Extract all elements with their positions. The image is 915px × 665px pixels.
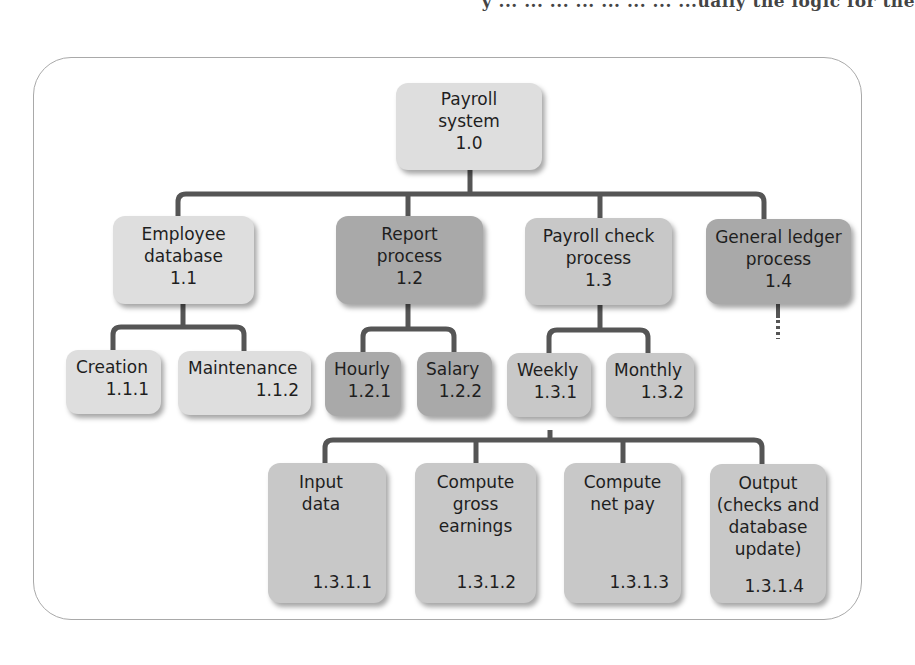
node-number: 1.4	[706, 270, 851, 292]
node-label: Maintenance	[178, 357, 311, 379]
node-hourly: Hourly 1.2.1	[325, 352, 401, 416]
node-number: 1.0	[396, 132, 542, 154]
node-label: Output (checks and database update)	[710, 464, 826, 560]
node-label: Report process	[336, 223, 483, 267]
node-label: Payroll system	[396, 88, 542, 132]
node-creation: Creation 1.1.1	[66, 350, 161, 414]
node-label: Compute net pay	[564, 463, 681, 515]
node-label: Weekly	[507, 359, 591, 381]
node-maintenance: Maintenance 1.1.2	[178, 351, 311, 415]
node-employee-database: Employee database 1.1	[113, 216, 254, 304]
node-number: 1.3.1.3	[610, 571, 669, 593]
node-compute-gross-earnings: Compute gross earnings 1.3.1.2	[415, 463, 536, 603]
node-report-process: Report process 1.2	[336, 216, 483, 304]
node-label: Hourly	[325, 358, 401, 380]
node-number: 1.1.2	[178, 379, 311, 401]
node-number: 1.1	[113, 267, 254, 289]
node-compute-net-pay: Compute net pay 1.3.1.3	[564, 463, 681, 603]
node-label: Salary	[417, 358, 492, 380]
node-monthly: Monthly 1.3.2	[606, 353, 694, 417]
node-label: Compute gross earnings	[415, 463, 536, 537]
node-number: 1.2	[336, 267, 483, 289]
node-payroll-system: Payroll system 1.0	[396, 83, 542, 170]
node-number: 1.2.1	[325, 380, 401, 402]
node-number: 1.2.2	[417, 380, 492, 402]
node-number: 1.3.1.4	[745, 575, 804, 597]
node-label: Employee database	[113, 223, 254, 267]
node-label: General ledger process	[706, 226, 851, 270]
node-payroll-check-process: Payroll check process 1.3	[525, 218, 672, 305]
node-number: 1.3.1.1	[313, 571, 372, 593]
node-weekly: Weekly 1.3.1	[507, 353, 591, 417]
node-general-ledger-process: General ledger process 1.4	[706, 219, 851, 304]
node-number: 1.3.1.2	[457, 571, 516, 593]
node-number: 1.3.1	[507, 381, 591, 403]
node-output-checks-database-update: Output (checks and database update) 1.3.…	[710, 464, 826, 603]
node-number: 1.1.1	[66, 378, 161, 400]
node-label: Monthly	[606, 359, 694, 381]
node-number: 1.3	[525, 269, 672, 291]
node-input-data: Input data 1.3.1.1	[268, 463, 386, 603]
node-label: Payroll check process	[525, 225, 672, 269]
node-number: 1.3.2	[606, 381, 694, 403]
node-label: Creation	[66, 356, 161, 378]
node-label: Input data	[268, 463, 386, 515]
node-salary: Salary 1.2.2	[417, 352, 492, 416]
